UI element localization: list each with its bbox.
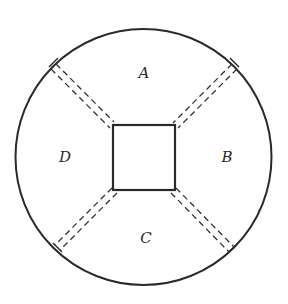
inner-square [113, 125, 175, 190]
region-label-b: B [220, 148, 232, 166]
region-label-a: A [137, 64, 150, 82]
dashed-channel-bottom-left [55, 188, 117, 250]
dashed-channel-bottom-right [171, 188, 234, 252]
dashed-channel-top-left [51, 64, 114, 128]
diagram-canvas: A B C D [0, 0, 288, 304]
region-label-d: D [58, 148, 71, 166]
region-label-c: C [140, 229, 152, 247]
dashed-channel-top-right [173, 64, 237, 128]
